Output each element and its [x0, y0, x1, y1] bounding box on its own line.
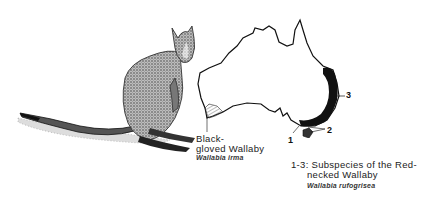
red-necked-line2: necked Wallaby: [291, 170, 417, 180]
australia-range-map: [195, 8, 380, 138]
map-label-2: 2: [327, 125, 332, 135]
wallaby-illustration: [10, 18, 200, 153]
tasmania: [303, 128, 313, 138]
black-gloved-line2: gloved Wallaby: [196, 144, 264, 154]
map-label-3: 3: [346, 90, 351, 100]
map-label-1: 1: [288, 135, 293, 145]
red-necked-caption: 1-3: Subspecies of the Red- necked Walla…: [291, 160, 417, 189]
black-gloved-latin: Wallabia irma: [196, 154, 264, 161]
red-necked-latin: Wallabia rufogrisea: [291, 182, 417, 189]
black-gloved-caption: Black- gloved Wallaby Wallabia irma: [196, 134, 264, 161]
